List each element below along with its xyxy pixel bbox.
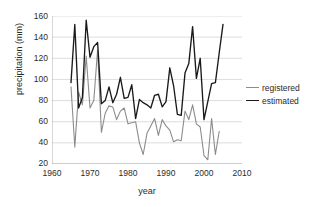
x-tick-1960: 1960 — [35, 168, 69, 178]
gridlines — [52, 16, 242, 164]
plot-svg — [52, 16, 242, 164]
y-tick-60: 60 — [24, 117, 48, 125]
legend-line-icon-registered — [246, 87, 259, 88]
precipitation-line-chart: precipitation (mm) 160 140 120 100 80 60… — [0, 0, 310, 207]
legend-item-registered: registered — [246, 81, 310, 94]
y-tick-160: 160 — [24, 12, 48, 20]
x-tick-1970: 1970 — [73, 168, 107, 178]
x-tick-1990: 1990 — [149, 168, 183, 178]
legend-item-estimated: estimated — [246, 94, 310, 107]
y-tick-20: 20 — [24, 159, 48, 167]
x-tick-2000: 2000 — [187, 168, 221, 178]
series-line-estimated — [71, 20, 223, 119]
axis-lines — [52, 16, 242, 164]
plot-area — [52, 16, 242, 164]
chart-legend: registered estimated — [246, 81, 310, 107]
legend-label-estimated: estimated — [262, 96, 299, 106]
legend-label-registered: registered — [262, 83, 300, 93]
y-tick-120: 120 — [24, 54, 48, 62]
y-tick-140: 140 — [24, 33, 48, 41]
y-tick-100: 100 — [24, 75, 48, 83]
y-tick-80: 80 — [24, 96, 48, 104]
x-axis-title: year — [52, 186, 242, 196]
x-tick-1980: 1980 — [111, 168, 145, 178]
series-line-registered — [71, 50, 219, 160]
legend-line-icon-estimated — [246, 100, 259, 101]
x-tick-2010: 2010 — [225, 168, 259, 178]
y-tick-40: 40 — [24, 138, 48, 146]
